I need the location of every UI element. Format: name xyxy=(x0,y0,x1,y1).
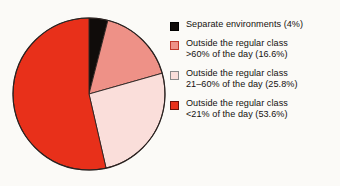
legend-item-outside-under-21[interactable]: Outside the regular class <21% of the da… xyxy=(170,98,338,121)
legend-label-outside-21-60: Outside the regular class 21–60% of the … xyxy=(186,68,297,91)
legend-swatch-separate-environments xyxy=(170,22,179,31)
legend-swatch-outside-21-60 xyxy=(170,71,179,80)
legend-label-outside-over-60: Outside the regular class >60% of the da… xyxy=(186,38,288,61)
pie-slices xyxy=(13,18,165,170)
pie-chart-figure: Separate environments (4%) Outside the r… xyxy=(0,0,340,186)
legend-swatch-outside-over-60 xyxy=(170,41,179,50)
legend-item-separate-environments[interactable]: Separate environments (4%) xyxy=(170,19,338,31)
legend-label-separate-environments: Separate environments (4%) xyxy=(186,19,303,30)
legend-item-outside-21-60[interactable]: Outside the regular class 21–60% of the … xyxy=(170,68,338,91)
legend-label-outside-under-21: Outside the regular class <21% of the da… xyxy=(186,98,288,121)
pie-chart xyxy=(11,16,167,174)
legend-swatch-outside-under-21 xyxy=(170,101,179,110)
chart-legend: Separate environments (4%) Outside the r… xyxy=(170,19,338,127)
pie-chart-svg xyxy=(11,16,167,174)
legend-item-outside-over-60[interactable]: Outside the regular class >60% of the da… xyxy=(170,38,338,61)
